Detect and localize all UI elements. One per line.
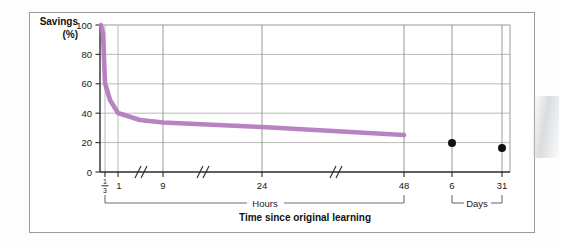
y-tick-label-0: 0 (87, 167, 92, 178)
later-retention-points (448, 139, 506, 152)
x-tick-label-31-days: 31 (497, 180, 508, 191)
svg-text:3: 3 (103, 187, 107, 194)
retention-curve (101, 25, 404, 135)
x-tick-label-24: 24 (257, 180, 268, 191)
x-tick-label-one-third: 1 3 (102, 178, 109, 194)
y-tick-label-80: 80 (81, 49, 92, 60)
days-bracket-label: Days (466, 198, 488, 209)
x-tick-label-48: 48 (399, 180, 410, 191)
y-tick-label-60: 60 (81, 78, 92, 89)
x-axis-caption: Time since original learning (239, 212, 371, 223)
y-tick-label-20: 20 (81, 137, 92, 148)
hours-bracket: Hours (105, 195, 404, 209)
x-tick-marks (105, 172, 502, 177)
y-tick-label-40: 40 (81, 108, 92, 119)
data-point-31-days (498, 144, 506, 152)
y-axis-title: Savings (%) (40, 16, 79, 40)
x-tick-label-6-days: 6 (449, 180, 454, 191)
chart-canvas: 100 80 60 40 20 0 Savings (%) (0, 0, 561, 249)
x-tick-labels: 1 3 1 9 24 48 6 31 (102, 178, 508, 194)
data-point-6-days (448, 139, 456, 147)
y-axis-title-line1: Savings (40, 16, 79, 27)
x-tick-label-1: 1 (116, 180, 121, 191)
figure-root: 100 80 60 40 20 0 Savings (%) (0, 0, 561, 249)
x-tick-label-9: 9 (160, 180, 165, 191)
days-bracket: Days (452, 195, 502, 209)
vertical-gridlines (105, 25, 510, 172)
y-tick-labels: 100 80 60 40 20 0 (76, 20, 92, 178)
horizontal-gridlines (100, 25, 510, 143)
hours-bracket-label: Hours (252, 198, 278, 209)
y-tick-label-100: 100 (76, 20, 92, 31)
svg-text:1: 1 (103, 178, 107, 185)
y-axis-title-line2: (%) (62, 29, 78, 40)
plot-axes (100, 25, 510, 172)
